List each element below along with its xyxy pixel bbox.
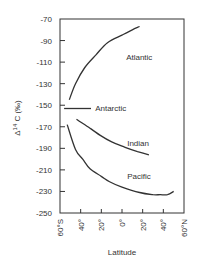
chart: -70-90-110-130-150-170-190-210-230-250 6… — [0, 0, 199, 267]
series-label-antarctic: Antarctic — [95, 104, 126, 113]
y-tick-label: -110 — [37, 58, 53, 67]
x-tick-label: 60°S — [56, 219, 65, 236]
x-axis-title: Latitude — [108, 248, 137, 257]
y-tick-label: -190 — [36, 144, 53, 153]
y-tick-label: -90 — [40, 37, 52, 46]
series-labels: AtlanticAntarcticIndianPacific — [95, 53, 152, 182]
y-tick-label: -210 — [36, 166, 53, 175]
y-tick-label: -70 — [40, 15, 52, 24]
y-tick-label: -150 — [36, 101, 53, 110]
y-tick-label: -170 — [36, 123, 53, 132]
x-tick-label: 60°N — [180, 219, 189, 237]
plot-frame — [60, 19, 184, 213]
x-tick-label: 20° — [97, 219, 106, 231]
series-line-pacific — [67, 125, 174, 195]
y-tick-label: -230 — [36, 187, 53, 196]
y-tick-label: -130 — [36, 80, 53, 89]
x-tick-label: 20° — [139, 219, 148, 231]
series-line-indian — [77, 119, 149, 155]
series-label-atlantic: Atlantic — [126, 53, 152, 62]
series-label-pacific: Pacific — [127, 172, 151, 181]
x-tick-label: 40° — [77, 219, 86, 231]
x-tick-label: 0° — [118, 219, 127, 227]
series-label-indian: Indian — [127, 139, 149, 148]
x-tick-label: 40° — [159, 219, 168, 231]
y-axis-title: Δ14 C (‰) — [12, 100, 22, 136]
series-line-atlantic — [69, 27, 139, 100]
y-tick-label: -250 — [36, 209, 53, 218]
y-axis-ticks: -70-90-110-130-150-170-190-210-230-250 — [36, 15, 65, 218]
